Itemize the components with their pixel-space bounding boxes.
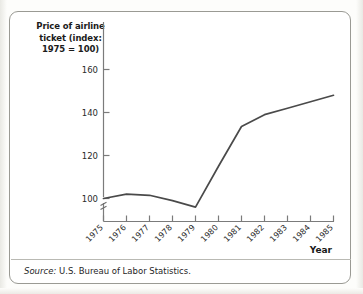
- figure-page: Price of airline ticket (index: 1975 = 1…: [0, 0, 363, 294]
- x-tick-label-1979: 1979: [176, 223, 197, 244]
- y-axis-ticks: [104, 70, 110, 199]
- x-tick-label-1976: 1976: [107, 223, 128, 244]
- page-edge-left: [0, 0, 7, 294]
- source-text: U.S. Bureau of Labor Statistics.: [59, 266, 191, 276]
- y-tick-label-160: 160: [82, 65, 98, 75]
- line-chart-plot: 160 140 120 100 1975 1976: [10, 12, 352, 262]
- figure-frame: Price of airline ticket (index: 1975 = 1…: [9, 11, 351, 284]
- page-edge-right: [356, 0, 363, 294]
- source-divider: [11, 259, 351, 260]
- y-tick-label-140: 140: [82, 108, 98, 118]
- x-tick-label-1983: 1983: [268, 223, 289, 244]
- source-note: Source: U.S. Bureau of Labor Statistics.: [24, 266, 191, 276]
- x-tick-label-1982: 1982: [245, 223, 266, 244]
- x-tick-label-1977: 1977: [130, 223, 151, 244]
- x-tick-label-1975: 1975: [84, 223, 105, 244]
- data-line-series: [104, 95, 334, 207]
- x-tick-label-1981: 1981: [222, 223, 243, 244]
- x-axis-tick-labels: 1975 1976 1977 1978 1979 1980 1981 1982 …: [84, 223, 335, 244]
- x-axis-title: Year: [310, 245, 332, 255]
- x-tick-label-1980: 1980: [199, 223, 220, 244]
- source-label: Source:: [24, 266, 56, 276]
- x-tick-label-1978: 1978: [153, 223, 174, 244]
- x-tick-label-1985: 1985: [314, 223, 335, 244]
- page-edge-bottom: [0, 288, 363, 294]
- x-axis-ticks: [104, 216, 334, 222]
- y-tick-label-120: 120: [82, 151, 98, 161]
- x-tick-label-1984: 1984: [291, 223, 312, 244]
- y-tick-label-100: 100: [82, 194, 98, 204]
